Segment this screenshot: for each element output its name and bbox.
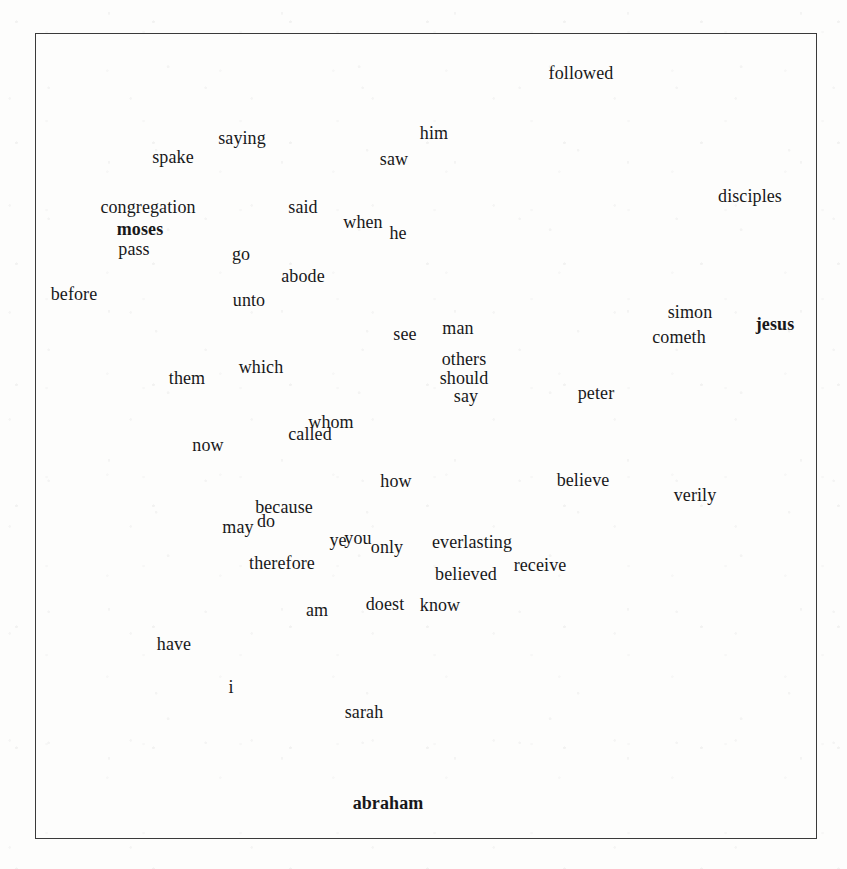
scatter-word-label: only bbox=[371, 538, 403, 556]
scatter-word-label: am bbox=[306, 601, 328, 619]
scatter-word-label: doest bbox=[366, 595, 405, 613]
scatter-word-label: man bbox=[442, 319, 473, 337]
scatter-word-label: when bbox=[343, 213, 382, 231]
scatter-word-label: how bbox=[380, 472, 411, 490]
scatter-word-label: therefore bbox=[249, 554, 315, 572]
scatter-word-label: called bbox=[288, 425, 332, 443]
scatter-word-label: congregation bbox=[100, 198, 195, 216]
scatter-word-label: unto bbox=[233, 291, 265, 309]
scatter-word-label: now bbox=[192, 436, 223, 454]
scatter-word-label: others bbox=[442, 350, 487, 368]
scatter-word-label: pass bbox=[118, 240, 149, 258]
scatter-word-label: go bbox=[232, 245, 250, 263]
scatter-word-label: abode bbox=[281, 267, 324, 285]
scatter-word-label: should bbox=[440, 369, 489, 387]
scatter-word-label: i bbox=[228, 678, 233, 696]
scatter-word-label: abraham bbox=[353, 794, 424, 812]
scatter-word-label: spake bbox=[152, 148, 193, 166]
scatter-word-label: say bbox=[454, 387, 478, 405]
scatter-word-label: jesus bbox=[756, 315, 795, 333]
scatter-word-label: them bbox=[169, 369, 205, 387]
scatter-word-label: before bbox=[51, 285, 98, 303]
scatter-word-label: believed bbox=[435, 565, 497, 583]
scatter-word-label: receive bbox=[514, 556, 567, 574]
scatter-word-label: peter bbox=[578, 384, 614, 402]
scatter-word-label: followed bbox=[549, 64, 614, 82]
scatter-word-label: see bbox=[393, 325, 416, 343]
scatter-word-label: verily bbox=[674, 486, 717, 504]
scatter-word-label: saw bbox=[380, 150, 408, 168]
scatter-word-label: said bbox=[288, 198, 317, 216]
scatter-word-label: cometh bbox=[652, 328, 706, 346]
scatter-word-label: saying bbox=[218, 129, 266, 147]
scatter-word-label: him bbox=[420, 124, 448, 142]
scatter-word-label: moses bbox=[117, 220, 164, 238]
scatter-word-label: everlasting bbox=[432, 533, 512, 551]
scatter-word-label: sarah bbox=[345, 703, 383, 721]
scatter-word-label: may bbox=[222, 518, 253, 536]
scatter-word-label: he bbox=[389, 224, 406, 242]
scatter-word-label: have bbox=[157, 635, 191, 653]
scatter-word-label: believe bbox=[557, 471, 610, 489]
scatter-word-label: know bbox=[420, 596, 460, 614]
scatter-word-label: do bbox=[257, 512, 275, 530]
scatter-word-label: which bbox=[239, 358, 284, 376]
scatter-word-label: you bbox=[344, 529, 371, 547]
scatter-word-label: disciples bbox=[718, 187, 782, 205]
figure-canvas: followedsayinghimspakesawdisciplescongre… bbox=[0, 0, 847, 869]
scatter-word-label: simon bbox=[668, 303, 713, 321]
